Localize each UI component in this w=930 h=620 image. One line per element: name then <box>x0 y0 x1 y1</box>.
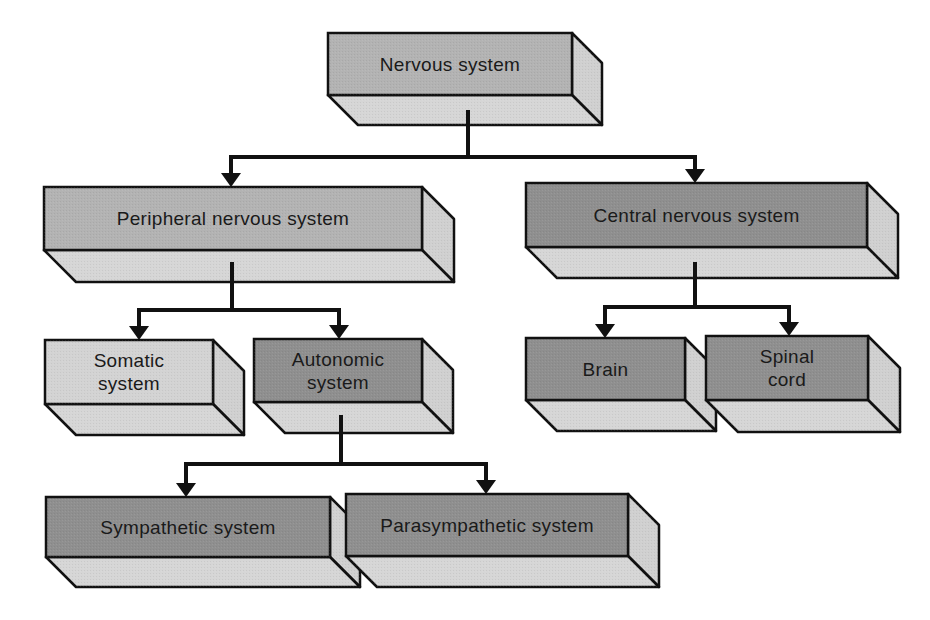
connector-layer <box>129 110 799 497</box>
node-peripheral-nervous-system: Peripheral nervous system <box>44 187 422 250</box>
arrow-down-icon <box>221 173 241 187</box>
node-nervous-system: Nervous system <box>328 33 572 95</box>
arrow-down-icon <box>595 324 615 338</box>
arrow-down-icon <box>176 483 196 497</box>
node-sympathetic-system: Sympathetic system <box>46 497 330 557</box>
node-somatic-system: Somatic system <box>45 340 213 404</box>
node-brain: Brain <box>526 338 685 400</box>
arrow-down-icon <box>329 325 349 339</box>
arrow-down-icon <box>476 480 496 494</box>
node-autonomic-system: Autonomic system <box>254 339 422 402</box>
node-spinal-cord: Spinal cord <box>706 336 868 400</box>
arrow-down-icon <box>129 326 149 340</box>
node-parasympathetic-system: Parasympathetic system <box>346 494 628 556</box>
node-central-nervous-system: Central nervous system <box>526 183 867 247</box>
arrow-down-icon <box>779 322 799 336</box>
arrow-down-icon <box>685 169 705 183</box>
